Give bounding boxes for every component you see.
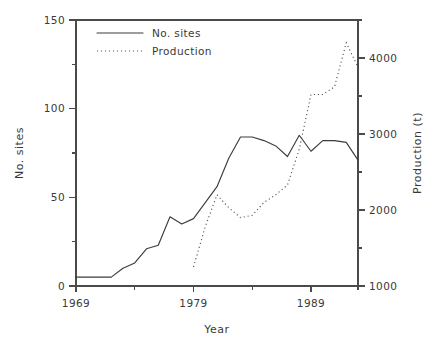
y-tick-label: 150 — [44, 14, 65, 26]
y-tick-label: 50 — [51, 191, 65, 203]
x-axis-title: Year — [203, 323, 229, 336]
series-line-production — [194, 43, 359, 267]
y-tick-label: 100 — [44, 102, 65, 114]
y2-tick-label: 2000 — [369, 204, 397, 216]
y2-tick-label: 3000 — [369, 128, 397, 140]
y-tick-label: 0 — [58, 280, 65, 292]
x-tick-label: 1969 — [62, 297, 90, 309]
x-tick-label: 1979 — [179, 297, 207, 309]
legend-label: Production — [152, 45, 212, 57]
data-series — [76, 43, 358, 277]
y2-tick-label: 4000 — [369, 52, 397, 64]
chart-legend: No. sitesProduction — [97, 27, 212, 57]
x-tick-label: 1989 — [297, 297, 325, 309]
legend-label: No. sites — [152, 27, 201, 39]
chart-figure: 0501001501000200030004000196919791989 No… — [0, 0, 442, 342]
y2-axis-title: Production (t) — [411, 112, 424, 194]
y2-tick-label: 1000 — [369, 280, 397, 292]
series-line-sites — [76, 135, 358, 277]
y-axis-title: No. sites — [13, 127, 26, 179]
axes: 0501001501000200030004000196919791989 — [44, 14, 398, 309]
line-chart: 0501001501000200030004000196919791989 No… — [0, 0, 442, 342]
